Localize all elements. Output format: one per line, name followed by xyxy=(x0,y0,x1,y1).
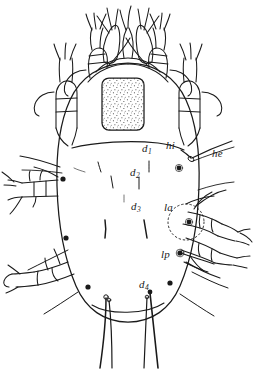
leg-3-left xyxy=(2,167,58,214)
mite-drawing-svg xyxy=(0,0,256,372)
leg-2-right xyxy=(149,13,192,96)
lateral-gland-opening xyxy=(168,204,204,240)
leg-3-right xyxy=(183,192,252,245)
leg-4-right xyxy=(181,238,250,272)
posterior-margin-arc xyxy=(92,303,164,312)
marginal-pores xyxy=(60,166,181,290)
leg-left-outer xyxy=(34,43,77,146)
leg-right-outer xyxy=(179,43,222,146)
left-lateral-setae xyxy=(20,156,78,314)
seta-lp xyxy=(176,249,214,264)
dorsal-setae xyxy=(98,161,158,368)
leg-1-left xyxy=(64,13,107,96)
sejugal-furrow xyxy=(72,142,184,150)
right-lateral-setae xyxy=(180,182,234,316)
leg-right-lower-seta xyxy=(186,190,226,278)
propodosomal-shield xyxy=(102,78,144,130)
leg-4-left xyxy=(4,249,74,293)
body-striae xyxy=(74,168,124,202)
mite-illustration-figure: d1 d2 d3 d4 hi he la lp xyxy=(0,0,256,372)
